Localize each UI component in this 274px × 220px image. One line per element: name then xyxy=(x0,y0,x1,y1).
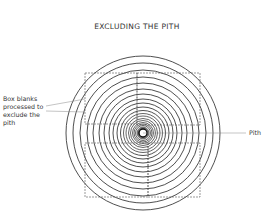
box-blanks-label: Box blanks processed to exclude the pith xyxy=(3,95,53,127)
pith-label: Pith xyxy=(249,129,261,136)
top-left-box xyxy=(85,73,137,124)
